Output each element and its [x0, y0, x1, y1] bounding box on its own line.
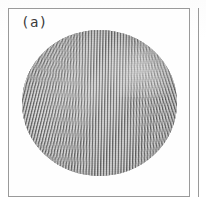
neighbor-panel-edge [198, 8, 206, 197]
panel-label: (a) [21, 15, 48, 29]
figure-panel-a: (a) [8, 8, 190, 197]
convection-cell-wrap [22, 30, 177, 176]
convection-cell-image [22, 30, 177, 176]
roll-domain-bottom-right [22, 30, 177, 176]
figure-root: (a) [0, 0, 206, 207]
